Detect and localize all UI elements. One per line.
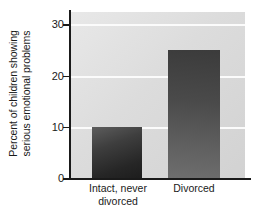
y-axis-title-line-2: serious emotional problems — [19, 30, 32, 156]
y-axis-title-line-1: Percent of children showing — [7, 30, 20, 156]
y-axis-tick-labels: 0 10 20 30 — [38, 0, 64, 209]
gridline-30 — [70, 24, 245, 26]
x-tick-label-divorced-line-1: Divorced — [144, 182, 244, 195]
bar-intact-never-divorced[interactable] — [92, 127, 142, 178]
x-tick-label-divorced: Divorced — [144, 182, 244, 195]
x-tick-label-intact-line-2: divorced — [58, 195, 178, 208]
x-axis-tick-labels: Intact, never divorced Divorced — [70, 182, 245, 209]
y-tick-label-30: 30 — [38, 19, 64, 30]
x-axis-line — [63, 178, 251, 180]
plot-area — [70, 12, 245, 178]
bar-divorced[interactable] — [168, 50, 220, 178]
y-tick-label-20: 20 — [38, 70, 64, 81]
y-tick-label-10: 10 — [38, 121, 64, 132]
y-axis-line — [69, 10, 71, 180]
bar-chart-figure: Percent of children showing serious emot… — [0, 0, 260, 209]
y-axis-title: Percent of children showing serious emot… — [0, 0, 38, 186]
